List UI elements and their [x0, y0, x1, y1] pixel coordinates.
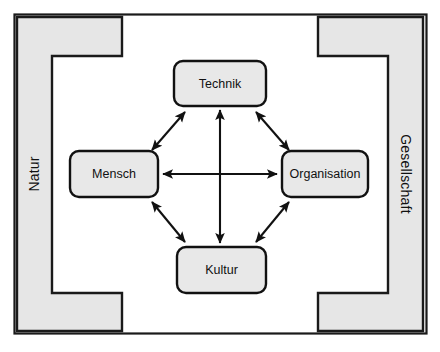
- node-organisation[interactable]: Organisation: [282, 151, 368, 197]
- context-label-gesellschaft: Gesellschaft: [398, 134, 414, 213]
- node-mensch-label: Mensch: [92, 167, 136, 181]
- node-kultur-label: Kultur: [205, 263, 238, 277]
- node-technik[interactable]: Technik: [174, 61, 266, 106]
- relationship-diagram: Natur Gesellschaft Technik Mensch: [0, 0, 440, 352]
- node-mensch[interactable]: Mensch: [70, 151, 158, 197]
- diagram-canvas: Natur Gesellschaft Technik Mensch: [0, 0, 440, 352]
- node-organisation-label: Organisation: [290, 167, 361, 181]
- context-label-natur: Natur: [26, 156, 42, 191]
- node-kultur[interactable]: Kultur: [177, 247, 266, 293]
- node-technik-label: Technik: [199, 77, 242, 91]
